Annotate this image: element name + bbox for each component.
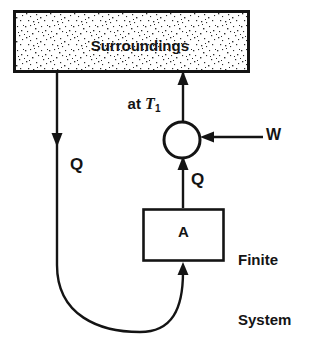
- diagram-canvas: Surroundings at T1 Q Q W A Finite System: [0, 0, 313, 350]
- surroundings-at-text: at: [128, 95, 146, 112]
- surroundings-label-line2: at T1: [14, 75, 249, 134]
- finite-system-caption: Finite System: [238, 209, 291, 350]
- system-block-label: A: [142, 224, 225, 240]
- finite-system-caption-line1: Finite: [238, 250, 291, 270]
- heat-label-left: Q: [70, 156, 83, 174]
- temperature-subscript: 1: [155, 103, 161, 114]
- arrowhead-up-into-system: [178, 262, 189, 275]
- heat-label-right: Q: [191, 171, 204, 189]
- surroundings-label: Surroundings at T1: [14, 18, 249, 172]
- work-label: W: [266, 126, 281, 143]
- temperature-symbol: T: [145, 95, 155, 112]
- finite-system-caption-line2: System: [238, 310, 291, 330]
- surroundings-label-line1: Surroundings: [91, 37, 189, 54]
